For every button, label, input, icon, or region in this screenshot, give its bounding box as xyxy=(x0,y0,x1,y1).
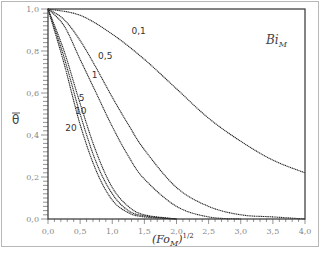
legend-title: BiM xyxy=(265,33,288,49)
curve-label: 1 xyxy=(92,70,98,80)
x-tick-label: 0,5 xyxy=(74,227,87,236)
y-tick-label: 0,8 xyxy=(26,47,39,56)
y-tick-label: 0,2 xyxy=(26,173,39,182)
curve-bi-5 xyxy=(48,9,177,219)
curve-labels: 0,10,5151020 xyxy=(65,26,146,133)
x-tick-label: 4,0 xyxy=(299,227,312,236)
x-tick-label: 1,0 xyxy=(106,227,119,236)
y-tick-label: 1,0 xyxy=(26,5,39,14)
x-tick-label: 1,5 xyxy=(138,227,151,236)
y-tick-label: 0,0 xyxy=(26,215,39,224)
x-tick-label: 3,5 xyxy=(267,227,280,236)
x-tick-label: 3,0 xyxy=(234,227,247,236)
curve-label: 0,1 xyxy=(132,26,146,36)
x-tick-label: 0,0 xyxy=(42,227,55,236)
chart-plot: 0,00,51,01,52,02,53,03,54,00,00,20,40,60… xyxy=(0,0,321,254)
y-axis-label: θ xyxy=(12,113,19,127)
curve-label: 20 xyxy=(65,123,77,133)
curve-label: 0,5 xyxy=(98,51,112,61)
y-tick-label: 0,4 xyxy=(26,131,39,140)
curve-label: 5 xyxy=(79,93,85,103)
y-tick-label: 0,6 xyxy=(26,89,39,98)
x-tick-label: 2,5 xyxy=(202,227,215,236)
curve-label: 10 xyxy=(75,106,87,116)
